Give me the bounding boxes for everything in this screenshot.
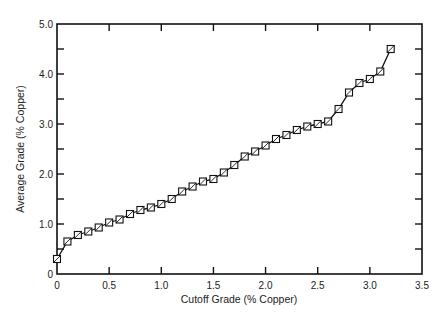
x-tick-label: 1.5 xyxy=(206,280,220,291)
y-axis: 01.02.03.04.05.0 xyxy=(39,19,422,280)
x-tick-label: 3.0 xyxy=(363,280,377,291)
y-axis-title: Average Grade (% Copper) xyxy=(14,85,26,213)
x-tick-label: 2.5 xyxy=(311,280,325,291)
y-tick-label: 1.0 xyxy=(39,219,53,230)
x-tick-label: 0.5 xyxy=(102,280,116,291)
y-tick-label: 0 xyxy=(47,269,53,280)
x-axis-title: Cutoff Grade (% Copper) xyxy=(181,293,298,305)
cutoff-grade-chart: 00.51.01.52.02.53.03.5 01.02.03.04.05.0 … xyxy=(0,0,448,324)
plot-frame xyxy=(57,24,422,274)
y-tick-label: 5.0 xyxy=(39,19,53,30)
y-tick-label: 3.0 xyxy=(39,119,53,130)
y-tick-label: 2.0 xyxy=(39,169,53,180)
x-tick-label: 1.0 xyxy=(154,280,168,291)
data-series xyxy=(54,46,395,263)
x-tick-label: 0 xyxy=(54,280,60,291)
y-tick-label: 4.0 xyxy=(39,69,53,80)
x-tick-label: 3.5 xyxy=(415,280,429,291)
x-tick-label: 2.0 xyxy=(259,280,273,291)
